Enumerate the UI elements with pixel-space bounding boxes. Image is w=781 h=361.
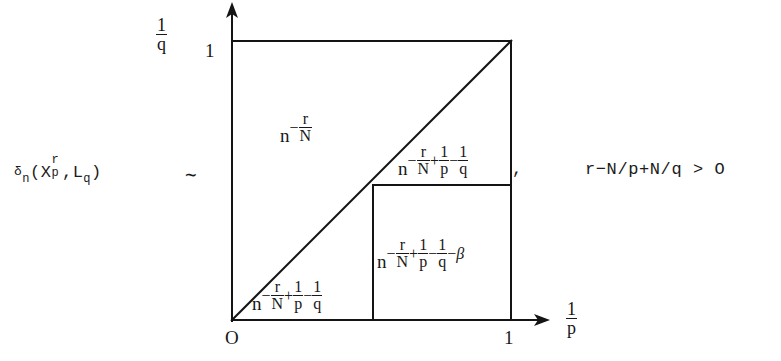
comma-L: ,L (62, 163, 83, 182)
l-subscript-q: q (83, 172, 91, 186)
minus-sign: − (428, 245, 437, 262)
condition-expression: r−N/p+N/q > O (585, 160, 725, 179)
fraction-denominator: N (417, 161, 431, 177)
fraction-denominator: p (418, 254, 428, 270)
open-paren-x: (X (30, 163, 51, 182)
fraction-denominator: q (458, 161, 468, 177)
x-subscript-p: p (51, 166, 59, 180)
fraction-one-over-p: 1p (293, 279, 303, 312)
fraction-denominator: p (293, 296, 303, 312)
fraction-numerator: 1 (156, 16, 167, 35)
fraction-r-over-N: rN (417, 144, 431, 177)
x-axis-tick-label-1: 1 (504, 327, 514, 349)
minus-sign: − (408, 152, 417, 169)
fraction-r-over-N: rN (271, 279, 285, 312)
fraction-one-over-q: 1q (437, 237, 447, 270)
exponent-group: −rN (290, 111, 313, 144)
fraction-numerator: r (396, 237, 410, 254)
fraction-numerator: 1 (566, 300, 577, 319)
x-sup-sub-group: rp (51, 160, 62, 177)
origin-tick-label: O (225, 327, 239, 349)
fraction-denominator: N (396, 254, 410, 270)
minus-sign: − (447, 245, 456, 262)
fraction-numerator: r (417, 144, 431, 161)
plus-sign: + (430, 152, 439, 169)
fraction-numerator: 1 (418, 237, 428, 254)
x-axis-label-one-over-p: 1p (566, 300, 577, 338)
close-paren: ) (91, 163, 102, 182)
fraction-denominator: q (312, 296, 322, 312)
inner-box-left-edge (372, 184, 374, 321)
fraction-numerator: r (271, 279, 285, 296)
asymptotic-relation-symbol: ∼ (185, 163, 196, 187)
fraction-numerator: 1 (293, 279, 303, 296)
fraction-one-over-p: 1p (439, 144, 449, 177)
exponent-base-n: n (252, 293, 262, 314)
exponent-group: −rN+1p−1q (408, 144, 469, 177)
y-axis-label-one-over-q: 1q (156, 16, 167, 54)
x-axis-arrowhead (530, 310, 550, 330)
fraction-denominator: N (271, 296, 285, 312)
exponent-base-n: n (280, 125, 290, 146)
lhs-formula: δn(Xrp,Lq) (14, 160, 102, 186)
y-axis-arrowhead (222, 2, 242, 22)
x-superscript-r: r (51, 153, 59, 167)
fraction-one-over-p: 1p (418, 237, 428, 270)
fraction-r-over-N: rN (396, 237, 410, 270)
minus-sign: − (387, 245, 396, 262)
minus-sign: − (262, 287, 271, 304)
region-label-middle-right: n−rN+1p−1q (398, 155, 468, 188)
y-axis-tick-label-1: 1 (205, 40, 215, 62)
exponent-group: −rN+1p−1q (262, 279, 323, 312)
fraction-denominator: N (299, 128, 313, 144)
fraction-one-over-q: 1q (458, 144, 468, 177)
separator-comma: , (512, 160, 522, 179)
fraction-one-over-q: 1q (312, 279, 322, 312)
exponent-group: −rN+1p−1q−β (387, 237, 465, 270)
fraction-denominator: p (566, 319, 577, 337)
exponent-base-n: n (398, 158, 408, 179)
fraction-denominator: p (439, 161, 449, 177)
plus-sign: + (409, 245, 418, 262)
region-label-bottom-left: n−rN+1p−1q (252, 290, 322, 323)
minus-sign: − (449, 152, 458, 169)
region-label-lower-right: n−rN+1p−1q−β (377, 248, 464, 281)
region-label-upper-left: n−rN (280, 122, 312, 155)
plus-sign: + (284, 287, 293, 304)
fraction-one-over-p: 1p (566, 300, 577, 338)
fraction-denominator: q (156, 35, 167, 53)
delta-subscript-n: n (22, 172, 30, 186)
fraction-denominator: q (437, 254, 447, 270)
minus-sign: − (303, 287, 312, 304)
fraction-r-over-N: rN (299, 111, 313, 144)
fraction-numerator: 1 (312, 279, 322, 296)
fraction-numerator: 1 (439, 144, 449, 161)
figure-canvas: δn(Xrp,Lq) ∼ 1 O 1 1q 1p n−rN n−rN+1p−1q… (0, 0, 781, 361)
exponent-base-n: n (377, 251, 387, 272)
fraction-one-over-q: 1q (156, 16, 167, 54)
fraction-numerator: r (299, 111, 313, 128)
fraction-numerator: 1 (458, 144, 468, 161)
beta-symbol: β (456, 245, 464, 262)
fraction-numerator: 1 (437, 237, 447, 254)
minus-sign: − (290, 119, 299, 136)
